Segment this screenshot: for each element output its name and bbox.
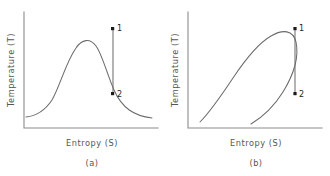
panel-b-saturation-dome: [200, 32, 297, 124]
panel-b-state-point-1-dot: [293, 27, 296, 30]
panel-b-state-point-2-dot: [293, 92, 296, 95]
panel-a-axes: [24, 12, 158, 128]
panel-b: 1 2 Temperature (T) Entropy (S) (b): [165, 0, 330, 176]
panel-b-y-axis-label: Temperature (T): [170, 33, 180, 108]
panel-b-state-point-1-label: 1: [299, 24, 304, 33]
panel-a-x-axis-label: Entropy (S): [66, 138, 118, 148]
panel-a-state-point-1-dot: [111, 27, 114, 30]
panel-a-state-point-2-dot: [111, 92, 114, 95]
panel-a-bell-curve: [26, 41, 152, 118]
panel-a: 1 2 Temperature (T) Entropy (S) (a): [0, 0, 165, 176]
panel-b-caption: (b): [249, 158, 262, 168]
panel-a-state-point-2-label: 2: [117, 90, 122, 99]
panel-a-plot: 1 2 Temperature (T) Entropy (S) (a): [0, 0, 165, 176]
panel-b-state-point-2-label: 2: [299, 90, 304, 99]
panel-b-x-axis-label: Entropy (S): [230, 138, 282, 148]
panel-b-plot: 1 2 Temperature (T) Entropy (S) (b): [165, 0, 330, 176]
panel-a-state-point-1-label: 1: [117, 24, 122, 33]
ts-diagram-figure: 1 2 Temperature (T) Entropy (S) (a) 1: [0, 0, 330, 176]
panel-a-caption: (a): [86, 158, 99, 168]
panel-a-y-axis-label: Temperature (T): [6, 33, 16, 108]
